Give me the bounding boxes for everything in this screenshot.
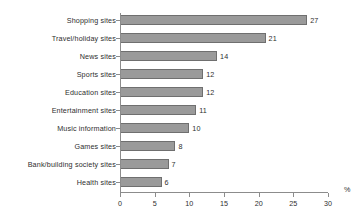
x-axis-tick xyxy=(293,193,294,197)
bar-value-label: 11 xyxy=(199,106,207,115)
y-axis-tick xyxy=(116,38,120,39)
bar-value-label: 8 xyxy=(178,142,182,151)
x-axis-tick xyxy=(224,193,225,197)
y-axis-tick xyxy=(116,92,120,93)
category-label: Entertainment sites xyxy=(52,106,116,115)
bar-value-label: 14 xyxy=(220,52,228,61)
bar-value-label: 6 xyxy=(165,178,169,187)
x-axis-tick xyxy=(259,193,260,197)
category-label: Health sites xyxy=(77,178,116,187)
bar-value-label: 12 xyxy=(206,88,214,97)
y-axis-tick xyxy=(116,110,120,111)
category-label: Bank/building society sites xyxy=(28,160,116,169)
x-axis-tick-label: 15 xyxy=(220,199,228,208)
x-axis-unit-label: % xyxy=(344,185,350,194)
plot-area: 27211412121110876 xyxy=(120,13,350,193)
y-axis-tick xyxy=(116,56,120,57)
category-label: Education sites xyxy=(65,88,116,97)
x-axis-tick-label: 0 xyxy=(118,199,122,208)
category-label: News sites xyxy=(80,52,116,61)
bar xyxy=(120,69,203,79)
y-axis-tick xyxy=(116,128,120,129)
bar xyxy=(120,33,266,43)
bar xyxy=(120,51,217,61)
x-axis-tick xyxy=(155,193,156,197)
bar-value-label: 27 xyxy=(310,16,318,25)
x-axis-tick xyxy=(120,193,121,197)
bar xyxy=(120,177,162,187)
x-axis-tick-label: 20 xyxy=(255,199,263,208)
bar-value-label: 12 xyxy=(206,70,214,79)
category-label: Games sites xyxy=(74,142,116,151)
x-axis-tick-label: 30 xyxy=(324,199,332,208)
x-axis-tick-label: 5 xyxy=(153,199,157,208)
y-axis-tick xyxy=(116,182,120,183)
bar-value-label: 21 xyxy=(269,34,277,43)
category-label: Music information xyxy=(57,124,116,133)
bar xyxy=(120,123,189,133)
category-label: Shopping sites xyxy=(67,16,116,25)
category-label: Sports sites xyxy=(77,70,116,79)
x-axis-tick-label: 25 xyxy=(289,199,297,208)
bar-value-label: 10 xyxy=(192,124,200,133)
bar-value-label: 7 xyxy=(172,160,176,169)
x-axis-tick-label: 10 xyxy=(185,199,193,208)
category-label: Travel/holiday sites xyxy=(52,34,116,43)
y-axis-tick xyxy=(116,164,120,165)
bar xyxy=(120,105,196,115)
y-axis-line xyxy=(120,13,121,193)
bar xyxy=(120,15,307,25)
horizontal-bar-chart: Shopping sitesTravel/holiday sitesNews s… xyxy=(0,0,357,218)
bar xyxy=(120,141,175,151)
y-axis-tick xyxy=(116,20,120,21)
y-axis-tick xyxy=(116,146,120,147)
y-axis-tick xyxy=(116,74,120,75)
bar xyxy=(120,159,169,169)
x-axis-tick xyxy=(189,193,190,197)
x-axis-tick xyxy=(328,193,329,197)
bar xyxy=(120,87,203,97)
